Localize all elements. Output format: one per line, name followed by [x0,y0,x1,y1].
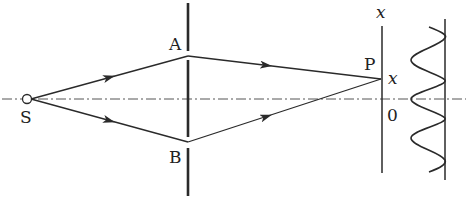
interference-diagram: S A B P x x 0 [0,0,468,206]
label-point-p: P [364,54,375,74]
ray-a-to-p [188,56,381,79]
label-screen-axis: x [376,2,386,22]
ray-s-to-a [31,56,188,99]
ray-s-to-b [31,99,188,142]
source-point [23,95,32,104]
label-slit-b: B [169,147,182,167]
ray-b-to-p [188,79,381,142]
label-origin: 0 [387,105,398,125]
label-source: S [20,107,32,127]
label-slit-a: A [168,34,182,54]
label-point-coord: x [388,68,398,88]
